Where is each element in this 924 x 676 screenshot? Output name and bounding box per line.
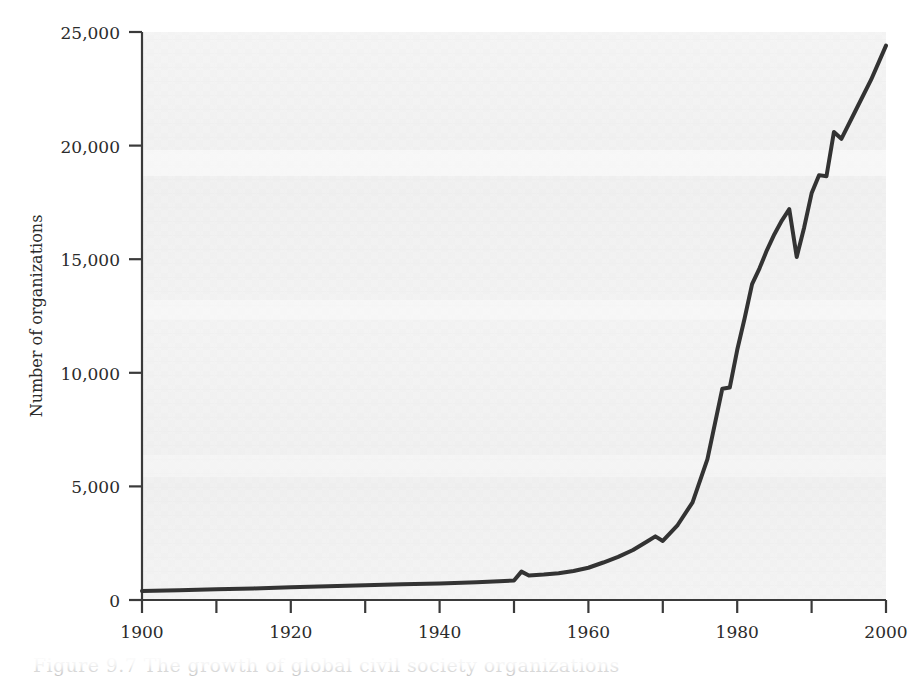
- x-tick-label-1980: 1980: [716, 622, 759, 642]
- x-tick-label-1940: 1940: [418, 622, 461, 642]
- y-tick-label-25000: 25,000: [61, 23, 120, 43]
- line-chart: 25,000 20,000 15,000 10,000 5,000 0 Numb…: [0, 0, 924, 676]
- plot-background: [142, 32, 886, 600]
- y-tick-label-10000: 10,000: [61, 364, 120, 384]
- y-tick-label-15000: 15,000: [61, 250, 120, 270]
- y-tick-label-20000: 20,000: [61, 137, 120, 157]
- figure-caption: Figure 9.7 The growth of global civil so…: [33, 655, 893, 676]
- y-tick-label-0: 0: [109, 591, 120, 611]
- x-axis: 1900 1920 1940 1960 1980 2000: [120, 600, 907, 642]
- x-tick-label-2000: 2000: [864, 622, 907, 642]
- figure-caption-container: Figure 9.7 The growth of global civil so…: [33, 655, 893, 676]
- y-axis-ticks: [129, 32, 142, 600]
- y-axis: 25,000 20,000 15,000 10,000 5,000 0: [61, 23, 142, 611]
- figure-container: 25,000 20,000 15,000 10,000 5,000 0 Numb…: [0, 0, 924, 676]
- y-tick-label-5000: 5,000: [71, 477, 120, 497]
- x-tick-label-1900: 1900: [120, 622, 163, 642]
- x-tick-label-1960: 1960: [567, 622, 610, 642]
- y-axis-title: Number of organizations: [27, 215, 46, 418]
- x-axis-ticks: [142, 600, 886, 613]
- x-tick-label-1920: 1920: [269, 622, 312, 642]
